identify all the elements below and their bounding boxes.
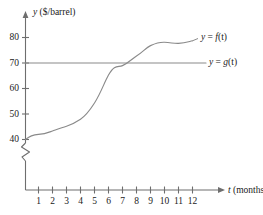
series-label-f: y = f(t) — [201, 33, 227, 43]
x-axis-title-unit: (months) — [233, 185, 263, 195]
x-tick-label-3: 3 — [60, 197, 74, 207]
chart-figure: y ($/barrel) t (months) 80 70 60 50 40 1… — [0, 0, 263, 215]
x-tick-label-6: 6 — [102, 197, 116, 207]
series-label-g-eq: = — [213, 57, 223, 67]
x-tick-label-7: 7 — [116, 197, 130, 207]
y-tick-label-60: 60 — [3, 84, 19, 94]
series-label-f-eq: = — [205, 32, 215, 42]
y-axis-title: y ($/barrel) — [33, 8, 75, 18]
y-tick-label-40: 40 — [3, 135, 19, 145]
series-label-f-arg: (t) — [218, 32, 227, 42]
x-tick-label-1: 1 — [32, 197, 46, 207]
y-axis-title-var: y — [33, 7, 37, 17]
x-axis-title: t (months) — [228, 186, 263, 196]
x-tick-label-2: 2 — [46, 197, 60, 207]
y-axis-break-zigzag — [22, 143, 30, 161]
y-axis-title-unit: ($/barrel) — [40, 7, 76, 17]
x-tick-label-8: 8 — [130, 197, 144, 207]
series-line-f — [26, 41, 193, 140]
series-label-g-arg: (t) — [228, 57, 237, 67]
x-tick-label-4: 4 — [74, 197, 88, 207]
y-tick-label-50: 50 — [3, 110, 19, 120]
f-label-leader-line — [193, 39, 199, 41]
series-label-g: y = g(t) — [209, 58, 237, 68]
x-axis-title-var: t — [228, 185, 231, 195]
y-tick-label-80: 80 — [3, 33, 19, 43]
x-tick-label-10: 10 — [158, 197, 172, 207]
y-axis-arrow-icon — [23, 11, 29, 18]
x-axis-arrow-icon — [218, 187, 225, 193]
x-tick-label-12: 12 — [186, 197, 200, 207]
x-tick-label-9: 9 — [144, 197, 158, 207]
x-tick-label-5: 5 — [88, 197, 102, 207]
x-tick-label-11: 11 — [172, 197, 186, 207]
y-tick-label-70: 70 — [3, 59, 19, 69]
